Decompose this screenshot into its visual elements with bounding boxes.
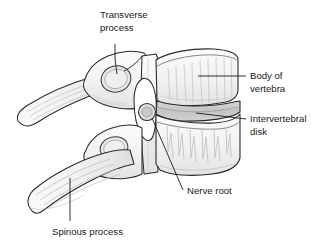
label-nerve-root: Nerve root — [187, 185, 232, 196]
label-body-of-vertebra-line2: vertebra — [250, 83, 286, 94]
label-body-of-vertebra-line1: Body of — [250, 70, 283, 81]
lower-vertebral-body — [156, 114, 240, 175]
nerve-root — [139, 104, 156, 121]
label-transverse-process-line2: process — [100, 22, 134, 33]
nerve-root-inner — [142, 107, 152, 117]
label-intervertebral-disk-line2: disk — [250, 126, 267, 137]
label-intervertebral-disk-line1: Intervertebral — [250, 113, 307, 124]
label-spinous-process: Spinous process — [52, 226, 123, 237]
vertebrae-anatomical-diagram: Transverse process Body of vertebra Inte… — [0, 0, 326, 248]
upper-vertebral-body — [156, 49, 238, 106]
label-transverse-process-line1: Transverse — [100, 9, 148, 20]
